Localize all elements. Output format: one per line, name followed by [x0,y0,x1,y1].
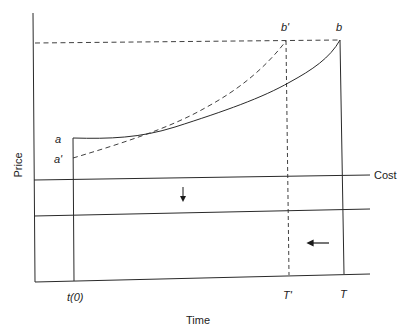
cost-label: Cost [374,169,397,181]
x-axis-label: Time [186,314,210,326]
x-axis [35,274,370,282]
x-tick-T-prime: T' [283,289,293,301]
max-price-dashed-line [35,40,340,43]
price-path-a-b [73,40,340,138]
point-b-prime-label: b' [281,21,290,33]
x-tick-t0: t(0) [67,291,84,303]
lower-cost-line [34,209,370,216]
cost-line [34,175,370,180]
point-b-label: b [336,21,342,33]
y-axis [33,13,35,282]
x-tick-T: T [340,288,348,300]
point-a-prime-label: a' [54,153,63,165]
price-time-diagram: a a' b' b Cost t(0) T' T Time Price [0,0,406,336]
point-a-label: a [55,133,61,145]
y-axis-label: Price [12,152,24,177]
T-vertical-line [340,40,344,274]
T-prime-vertical-dashed-line [286,41,289,275]
t0-vertical-line [73,138,74,281]
